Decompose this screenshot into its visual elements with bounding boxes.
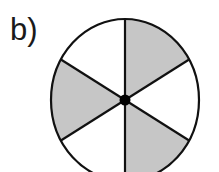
circle-sectors xyxy=(51,19,189,172)
shaded-sector-bottom-right xyxy=(125,100,189,172)
pie-diagram xyxy=(0,0,219,172)
shaded-sector-top-right xyxy=(125,19,189,100)
center-dot xyxy=(120,95,131,106)
shaded-sector-left xyxy=(51,60,125,141)
